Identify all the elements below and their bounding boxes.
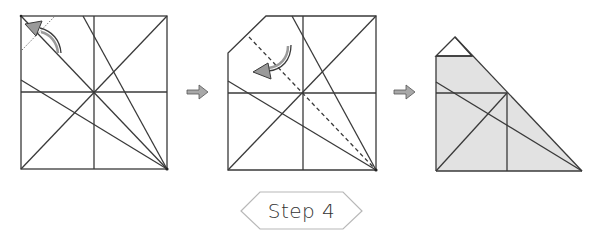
valley-fold-line: [249, 37, 376, 170]
panel-2: [228, 16, 378, 172]
reference-dot: [374, 168, 377, 171]
step-label: Step 4: [241, 192, 362, 229]
panel-1: [20, 15, 169, 171]
top-flap: [436, 37, 472, 56]
corner-dot: [20, 15, 23, 18]
fold-arrow-icon: [25, 21, 61, 53]
shaded-region: [436, 56, 582, 171]
bisector-crease-left: [228, 81, 376, 170]
fold-arrow-icon: [253, 45, 291, 79]
next-step-arrow-icon: [187, 85, 208, 99]
reference-dot: [165, 167, 168, 170]
panel-3: [436, 37, 582, 171]
next-step-arrow-icon: [394, 85, 415, 99]
